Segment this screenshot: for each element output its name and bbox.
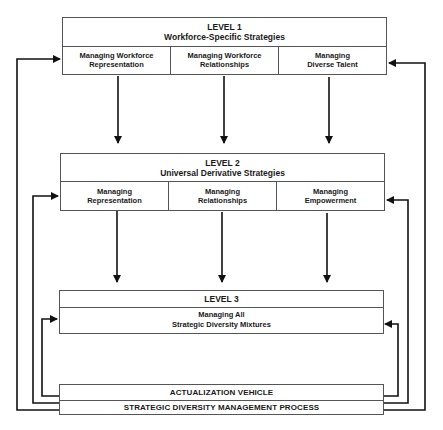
level2-box: LEVEL 2 Universal Derivative Strategies … (60, 153, 385, 211)
level2-title: LEVEL 2 (205, 158, 239, 168)
feedback-right-level1 (384, 63, 425, 410)
sdm-process-label: STRATEGIC DIVERSITY MANAGEMENT PROCESS (60, 400, 383, 415)
level1-subtitle: Workforce-Specific Strategies (164, 32, 285, 42)
level3-header: LEVEL 3 (60, 291, 383, 308)
level1-header: LEVEL 1 Workforce-Specific Strategies (63, 18, 386, 47)
feedback-left-level3 (42, 319, 59, 396)
feedback-left-level1 (17, 59, 60, 410)
level1-box: LEVEL 1 Workforce-Specific Strategies Ma… (62, 17, 387, 75)
level1-cell-representation: Managing Workforce Representation (63, 46, 170, 74)
feedback-right-level3 (384, 324, 398, 396)
level2-cell-relationships: Managing Relationships (168, 181, 276, 210)
feedback-left-level2 (33, 196, 59, 403)
base-box: ACTUALIZATION VEHICLE STRATEGIC DIVERSIT… (59, 384, 384, 415)
level3-content: Managing All Strategic Diversity Mixture… (60, 307, 383, 333)
level2-cell-representation: Managing Representation (61, 181, 168, 210)
level2-cell-empowerment: Managing Empowerment (276, 181, 384, 210)
actualization-vehicle-label: ACTUALIZATION VEHICLE (60, 385, 383, 401)
level1-title: LEVEL 1 (207, 22, 241, 32)
level2-subtitle: Universal Derivative Strategies (160, 168, 285, 178)
feedback-right-level2 (384, 200, 408, 403)
level3-title: LEVEL 3 (204, 294, 238, 304)
level1-cell-diverse-talent: Managing Diverse Talent (278, 46, 386, 74)
level3-box: LEVEL 3 Managing All Strategic Diversity… (59, 290, 384, 334)
level2-header: LEVEL 2 Universal Derivative Strategies (61, 154, 384, 182)
level1-cell-relationships: Managing Workforce Relationships (170, 46, 278, 74)
